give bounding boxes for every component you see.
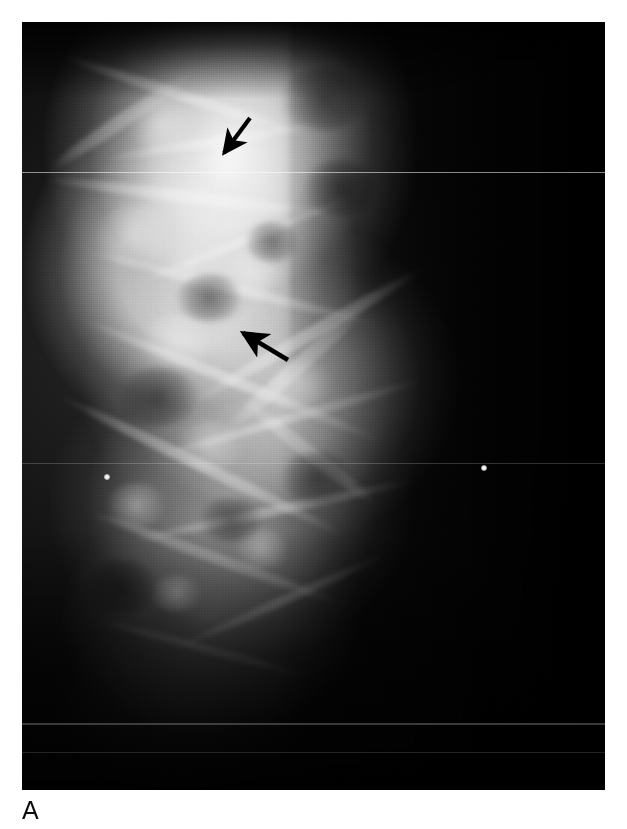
inferior-falloff	[22, 529, 605, 790]
fat-lucency	[174, 275, 244, 321]
panel-letter-label: A	[22, 795, 39, 825]
calcification-left	[104, 474, 110, 480]
figure-panel: A	[0, 0, 627, 829]
superior-falloff	[22, 22, 605, 99]
calcification-right	[481, 465, 487, 471]
mammogram-image[interactable]	[22, 22, 605, 790]
fat-lucency	[115, 368, 201, 426]
